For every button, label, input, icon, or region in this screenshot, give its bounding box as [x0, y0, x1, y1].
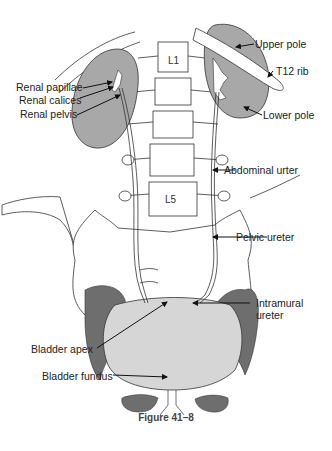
- label-abdominal-ureter: Abdominal urter: [224, 164, 298, 176]
- label-pelvic-ureter: Pelvic ureter: [236, 231, 294, 243]
- label-upper-pole: Upper pole: [255, 38, 306, 50]
- label-renal-papillae: Renal papillae: [16, 81, 83, 93]
- label-intramural-ureter-2: ureter: [256, 309, 283, 321]
- label-bladder-apex: Bladder apex: [31, 343, 93, 355]
- figure-caption: Figure 41–8: [0, 412, 332, 423]
- label-renal-calices: Renal calices: [19, 94, 81, 106]
- label-renal-pelvis: Renal pelvis: [20, 108, 77, 120]
- bladder: [103, 298, 242, 391]
- left-pubic-bone: [122, 395, 158, 412]
- label-t12-rib: T12 rib: [276, 65, 309, 77]
- right-pubic-bone: [195, 395, 228, 412]
- label-lower-pole: Lower pole: [263, 109, 314, 121]
- vertebra-label-l5: L5: [165, 194, 177, 205]
- label-intramural-ureter-1: Intramural: [256, 297, 303, 309]
- vertebra-label-l1: L1: [168, 55, 180, 66]
- label-bladder-fundus: Bladder fundus: [42, 370, 113, 382]
